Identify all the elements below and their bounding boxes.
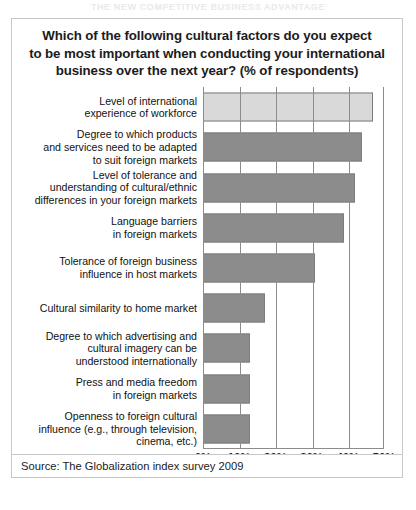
bar-category-label-line: to suit foreign markets (12, 154, 197, 167)
bar (203, 294, 265, 323)
bar-cell (203, 127, 402, 167)
bar-category-label: Cultural similarity to home market (12, 302, 203, 315)
bar-category-label: Tolerance of foreign businessinfluence i… (12, 255, 203, 280)
table-row: Language barriersin foreign markets (12, 208, 402, 248)
bar-category-label-line: Degree to which products (12, 128, 197, 141)
table-row: Tolerance of foreign businessinfluence i… (12, 248, 402, 288)
bar-category-label-line: Level of international (12, 95, 197, 108)
bar (203, 93, 373, 122)
bar-category-label-line: cinema, etc.) (12, 435, 197, 448)
bar-category-label: Level of tolerance andunderstanding of c… (12, 169, 203, 207)
bar (203, 414, 250, 443)
bar-cell (203, 248, 402, 288)
bar-cell (203, 167, 402, 207)
chart-title: Which of the following cultural factors … (12, 19, 402, 82)
bar-cell (203, 87, 402, 127)
chart-title-line-2: to be most important when conducting you… (20, 45, 394, 63)
table-row: Degree to which advertising andcultural … (12, 328, 402, 368)
bar-category-label-line: cultural imagery can be (12, 342, 197, 355)
bar-category-label-line: and services need to be adapted (12, 141, 197, 154)
bar-category-label-line: Language barriers (12, 215, 197, 228)
bar (203, 374, 250, 403)
bar-category-label-line: in foreign markets (12, 228, 197, 241)
bar-cell (203, 409, 402, 449)
bar-category-label-line: Degree to which advertising and (12, 330, 197, 343)
bar-category-label-line: Press and media freedom (12, 376, 197, 389)
bar (203, 173, 355, 202)
table-row: Level of tolerance andunderstanding of c… (12, 167, 402, 207)
bar-category-label-line: differences in your foreign markets (12, 194, 197, 207)
bar-category-label: Level of internationalexperience of work… (12, 95, 203, 120)
bar-category-label-line: Level of tolerance and (12, 169, 197, 182)
bar-category-label-line: understanding of cultural/ethnic (12, 181, 197, 194)
bar (203, 334, 250, 363)
bar-category-label-line: Openness to foreign cultural (12, 410, 197, 423)
source-note: Source: The Globalization index survey 2… (12, 454, 402, 477)
table-row: Cultural similarity to home market (12, 288, 402, 328)
bar (203, 133, 362, 162)
bar-category-label-line: influence in host markets (12, 268, 197, 281)
bar-category-label-line: understood internationally (12, 355, 197, 368)
chart-title-line-3: business over the next year? (% of respo… (20, 62, 394, 80)
bar-cell (203, 288, 402, 328)
table-row: Degree to which productsand services nee… (12, 127, 402, 167)
bar-category-label: Language barriersin foreign markets (12, 215, 203, 240)
table-row: Openness to foreign culturalinfluence (e… (12, 409, 402, 449)
bar-category-label-line: experience of workforce (12, 107, 197, 120)
bar (203, 213, 344, 242)
bar-cell (203, 328, 402, 368)
bar-category-label: Degree to which advertising andcultural … (12, 330, 203, 368)
bar-category-label-line: influence (e.g., through television, (12, 423, 197, 436)
bar-category-label: Press and media freedomin foreign market… (12, 376, 203, 401)
bar-category-label: Openness to foreign culturalinfluence (e… (12, 410, 203, 448)
bar-category-label: Degree to which productsand services nee… (12, 128, 203, 166)
table-row: Press and media freedomin foreign market… (12, 369, 402, 409)
bar-cell (203, 369, 402, 409)
chart-figure: Which of the following cultural factors … (11, 18, 403, 478)
bar-category-label-line: Tolerance of foreign business (12, 255, 197, 268)
table-row: Level of internationalexperience of work… (12, 87, 402, 127)
chart-title-line-1: Which of the following cultural factors … (20, 27, 394, 45)
page-header: THE NEW COMPETITIVE BUSINESS ADVANTAGE (0, 0, 416, 14)
bar-category-label-line: Cultural similarity to home market (12, 302, 197, 315)
bar-category-label-line: in foreign markets (12, 389, 197, 402)
bar (203, 253, 315, 282)
plot-wrapper: Level of internationalexperience of work… (12, 87, 402, 477)
bar-cell (203, 208, 402, 248)
